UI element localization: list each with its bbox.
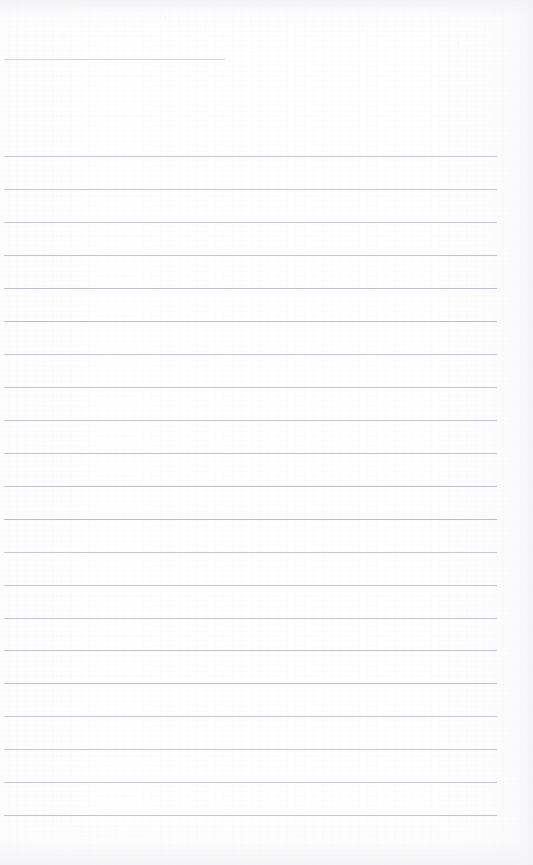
ruled-line (4, 189, 497, 190)
ruled-line (4, 387, 497, 388)
ruled-line (4, 288, 497, 289)
ruled-line (4, 156, 497, 157)
top-scan-edge-shading (0, 0, 533, 30)
ruled-line (4, 354, 497, 355)
ruled-line (4, 716, 497, 717)
ruled-line (4, 749, 497, 750)
ruled-line (4, 618, 497, 619)
ruled-line (4, 420, 497, 421)
ruled-line (4, 782, 497, 783)
ruled-line (4, 815, 497, 816)
ruled-line (4, 486, 497, 487)
header-rule (4, 59, 225, 60)
ruled-line (4, 453, 497, 454)
ruled-line (4, 585, 497, 586)
ruled-line (4, 683, 497, 684)
bottom-scan-edge-shading (0, 819, 533, 865)
right-page-edge-shading (511, 0, 533, 865)
notepad-page (0, 0, 533, 865)
ruled-line (4, 222, 497, 223)
ruled-line (4, 519, 497, 520)
ruled-line (4, 650, 497, 651)
ruled-line (4, 552, 497, 553)
ruled-line (4, 321, 497, 322)
ruled-line (4, 255, 497, 256)
scan-grain-texture (0, 0, 533, 865)
